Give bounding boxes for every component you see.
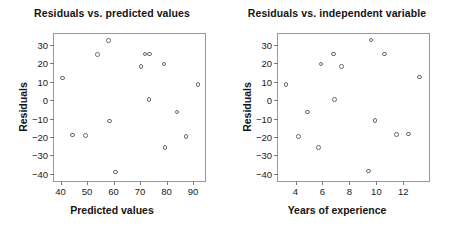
scatter-panel-predicted-values: Residuals vs. predicted values 405060708… <box>0 0 224 230</box>
data-point <box>147 52 152 57</box>
x-tick-label: 4 <box>293 186 298 197</box>
data-point <box>113 170 118 175</box>
data-point <box>60 76 65 81</box>
data-point <box>162 62 167 67</box>
x-tick-label: 40 <box>55 186 66 197</box>
data-point <box>331 52 336 57</box>
x-tick-mark <box>322 181 323 185</box>
data-point <box>339 64 344 69</box>
data-point <box>394 132 399 137</box>
y-axis-label-right: Residuals <box>241 67 253 147</box>
y-tick-mark <box>50 119 54 120</box>
data-point <box>366 169 371 174</box>
data-point <box>175 110 180 115</box>
y-tick-label: −30 <box>32 150 48 161</box>
y-tick-mark <box>274 45 278 46</box>
data-point <box>382 52 387 57</box>
x-tick-label: 8 <box>347 186 352 197</box>
y-tick-mark <box>50 155 54 156</box>
plot-frame-right: 46810123020100−10−20−30−40 <box>277 33 430 182</box>
data-point <box>83 133 88 138</box>
chart-title-right: Residuals vs. independent variable <box>225 7 449 19</box>
x-tick-label: 10 <box>371 186 382 197</box>
data-point <box>316 145 321 150</box>
y-tick-label: 30 <box>37 40 48 51</box>
y-tick-label: −10 <box>256 113 272 124</box>
plot-frame-left: 4050607080903020100−10−20−30−40 <box>53 33 206 182</box>
y-tick-mark <box>274 82 278 83</box>
x-tick-mark <box>61 181 62 185</box>
data-point <box>369 38 374 43</box>
y-tick-label: 10 <box>261 76 272 87</box>
y-tick-mark <box>50 174 54 175</box>
x-tick-mark <box>296 181 297 185</box>
x-tick-mark <box>140 181 141 185</box>
y-tick-mark <box>274 63 278 64</box>
data-point <box>332 97 337 102</box>
data-point <box>95 52 100 57</box>
x-tick-label: 70 <box>135 186 146 197</box>
data-point <box>147 97 152 102</box>
x-tick-mark <box>114 181 115 185</box>
figure-root: Residuals vs. predicted values 405060708… <box>0 0 449 230</box>
y-tick-mark <box>274 100 278 101</box>
y-tick-label: 20 <box>37 58 48 69</box>
y-axis-label-left: Residuals <box>17 67 29 147</box>
x-axis-label-left: Predicted values <box>0 204 224 216</box>
y-tick-label: −10 <box>32 113 48 124</box>
x-axis-label-right: Years of experience <box>225 204 449 216</box>
y-tick-mark <box>274 155 278 156</box>
y-tick-mark <box>274 137 278 138</box>
data-point <box>139 64 144 69</box>
y-tick-label: −20 <box>32 131 48 142</box>
y-tick-label: 10 <box>37 76 48 87</box>
data-point <box>107 119 112 124</box>
x-tick-mark <box>193 181 194 185</box>
y-tick-label: 20 <box>261 58 272 69</box>
data-point <box>296 134 301 139</box>
y-tick-mark <box>50 100 54 101</box>
data-point <box>196 82 201 87</box>
x-tick-label: 12 <box>398 186 409 197</box>
data-point <box>305 110 310 115</box>
data-point <box>284 82 289 87</box>
data-point <box>163 145 168 150</box>
y-tick-mark <box>50 63 54 64</box>
x-tick-label: 80 <box>161 186 172 197</box>
y-tick-label: −30 <box>256 150 272 161</box>
x-tick-label: 90 <box>188 186 199 197</box>
y-tick-label: 30 <box>261 40 272 51</box>
y-tick-label: 0 <box>267 95 272 106</box>
data-point <box>319 62 324 67</box>
y-tick-label: −40 <box>32 168 48 179</box>
chart-title-left: Residuals vs. predicted values <box>0 7 224 19</box>
data-point <box>417 75 422 80</box>
y-tick-mark <box>50 82 54 83</box>
x-tick-mark <box>167 181 168 185</box>
x-tick-mark <box>349 181 350 185</box>
data-point <box>406 132 411 137</box>
y-tick-mark <box>274 119 278 120</box>
x-tick-label: 60 <box>108 186 119 197</box>
x-tick-label: 50 <box>82 186 93 197</box>
x-tick-mark <box>376 181 377 185</box>
data-point <box>70 133 75 138</box>
y-tick-mark <box>274 174 278 175</box>
x-tick-mark <box>403 181 404 185</box>
y-tick-label: −20 <box>256 131 272 142</box>
x-tick-label: 6 <box>320 186 325 197</box>
data-point <box>106 38 111 43</box>
y-tick-mark <box>50 137 54 138</box>
scatter-panel-independent-variable: Residuals vs. independent variable 46810… <box>225 0 449 230</box>
data-point <box>373 118 378 123</box>
y-tick-mark <box>50 45 54 46</box>
x-tick-mark <box>87 181 88 185</box>
y-tick-label: −40 <box>256 168 272 179</box>
data-point <box>184 134 189 139</box>
y-tick-label: 0 <box>43 95 48 106</box>
